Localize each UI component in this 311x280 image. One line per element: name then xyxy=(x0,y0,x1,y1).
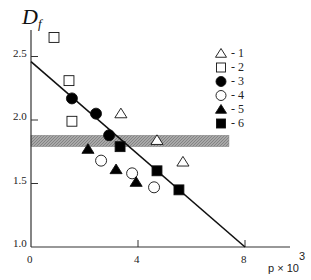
y-tick-label: 2.0 xyxy=(13,110,27,122)
data-point-series-2 xyxy=(64,76,74,86)
y-tick-label: 1.5 xyxy=(13,174,27,186)
x-tick-label: 4 xyxy=(134,253,140,265)
legend-label: - 2 xyxy=(231,60,244,75)
filled-circle-icon xyxy=(214,74,228,88)
data-point-series-6 xyxy=(152,166,162,176)
legend-item: - 1 xyxy=(214,46,244,60)
data-point-series-3 xyxy=(104,130,115,141)
data-point-series-4 xyxy=(96,155,107,166)
legend-item: - 6 xyxy=(214,116,244,130)
plot-area xyxy=(0,0,311,280)
fit-line xyxy=(31,62,245,247)
data-point-series-2 xyxy=(49,33,59,43)
legend-label: - 1 xyxy=(231,46,244,61)
filled-triangle-icon xyxy=(214,102,228,116)
legend-label: - 3 xyxy=(231,74,244,89)
legend-label: - 5 xyxy=(231,102,244,117)
data-markers xyxy=(49,33,189,195)
open-triangle-icon xyxy=(214,46,228,60)
data-point-series-6 xyxy=(115,142,125,152)
legend-label: - 6 xyxy=(231,116,244,131)
data-point-series-4 xyxy=(149,182,160,193)
y-tick-label: 2.5 xyxy=(13,47,27,59)
x-tick-label: 0 xyxy=(27,253,33,265)
shaded-band xyxy=(31,135,229,146)
data-point-series-3 xyxy=(91,108,102,119)
legend-item: - 5 xyxy=(214,102,244,116)
legend-item: - 2 xyxy=(214,60,244,74)
x-tick-label: 8 xyxy=(241,253,247,265)
legend-item: - 3 xyxy=(214,74,244,88)
data-point-series-5 xyxy=(110,164,122,174)
legend-label: - 4 xyxy=(231,88,244,103)
open-square-icon xyxy=(214,60,228,74)
open-circle-icon xyxy=(214,88,228,102)
y-tick-label: 1.0 xyxy=(13,237,27,249)
legend-item: - 4 xyxy=(214,88,244,102)
data-point-series-2 xyxy=(67,116,77,126)
data-point-series-3 xyxy=(66,93,77,104)
data-point-series-1 xyxy=(177,156,189,166)
data-point-series-6 xyxy=(174,185,184,195)
data-point-series-1 xyxy=(115,108,127,118)
y-axis-label: Df xyxy=(22,4,42,32)
x-axis-label: p × 103 xyxy=(268,262,299,274)
filled-square-icon xyxy=(214,116,228,130)
legend: - 1- 2- 3- 4- 5- 6 xyxy=(214,46,244,130)
